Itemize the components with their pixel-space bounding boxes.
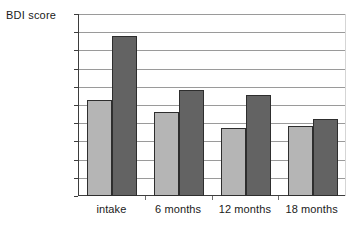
bar-6-months-series-1 — [154, 112, 179, 196]
x-tick-mark-1 — [145, 196, 146, 200]
bar-18-months-series-1 — [288, 126, 313, 196]
plot-frame-right-edge — [345, 14, 346, 196]
bar-chart: BDI score 1011121314151617181920 intake6… — [0, 0, 363, 233]
gridline-20 — [79, 14, 345, 15]
bar-intake-series-1 — [87, 100, 112, 196]
x-tick-mark-2 — [212, 196, 213, 200]
bar-18-months-series-2 — [313, 119, 338, 196]
x-tick-mark-3 — [278, 196, 279, 200]
x-category-label-12-months: 12 months — [219, 203, 271, 215]
plot-area — [78, 14, 345, 196]
x-category-label-18-months: 18 months — [285, 203, 337, 215]
bar-intake-series-2 — [112, 36, 137, 196]
y-tick-mark-10 — [74, 196, 78, 197]
y-axis-title: BDI score — [6, 9, 56, 21]
x-category-label-6-months: 6 months — [155, 203, 201, 215]
bar-6-months-series-2 — [179, 90, 204, 196]
bar-12-months-series-1 — [221, 128, 246, 196]
x-category-label-intake: intake — [96, 203, 126, 215]
gridline-19 — [79, 32, 345, 33]
bar-12-months-series-2 — [246, 95, 271, 196]
